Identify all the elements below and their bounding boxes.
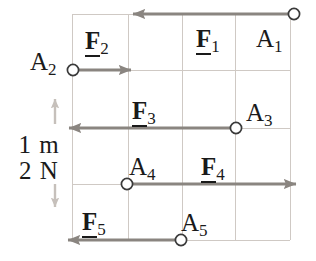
label-a5-symbol: A: [181, 209, 199, 236]
label-a2-symbol: A: [30, 48, 48, 75]
label-a5: A5: [181, 210, 208, 239]
label-f2: F2: [85, 28, 109, 57]
label-f3: F3: [132, 98, 156, 127]
scale-force-label: 2 N: [8, 158, 70, 184]
label-a1: A1: [256, 26, 283, 55]
label-f4-symbol: F: [201, 153, 216, 183]
force-vector-diagram: F1 A1 F2 A2 F3 A3 F4 A4 F5 A5 1 m 2 N: [0, 0, 316, 261]
label-a5-subscript: 5: [199, 221, 208, 240]
point-marker-a3: [230, 122, 241, 133]
label-f4-subscript: 4: [216, 165, 225, 184]
label-f3-symbol: F: [132, 97, 147, 127]
label-a4-symbol: A: [129, 153, 147, 180]
vector-f1: [133, 8, 300, 19]
label-a4-subscript: 4: [147, 165, 156, 184]
label-a4: A4: [129, 154, 156, 183]
label-f2-subscript: 2: [100, 39, 109, 58]
label-f5-subscript: 5: [97, 220, 106, 239]
label-a1-symbol: A: [256, 25, 274, 52]
point-marker-a1: [288, 8, 299, 19]
label-a2: A2: [30, 49, 57, 78]
label-f1: F1: [196, 26, 220, 55]
label-f5: F5: [82, 209, 106, 238]
point-marker-a2: [67, 64, 78, 75]
label-f3-subscript: 3: [147, 109, 156, 128]
label-f4: F4: [201, 154, 225, 183]
label-f5-symbol: F: [82, 208, 97, 238]
label-a3: A3: [246, 100, 273, 129]
label-a3-symbol: A: [246, 99, 264, 126]
label-a3-subscript: 3: [264, 111, 273, 130]
label-a1-subscript: 1: [274, 37, 283, 56]
label-f2-symbol: F: [85, 27, 100, 57]
vector-f2: [67, 64, 131, 75]
label-f1-subscript: 1: [211, 37, 220, 56]
scale-length-label: 1 m: [8, 132, 70, 158]
label-a2-subscript: 2: [48, 60, 57, 79]
scale-legend: 1 m 2 N: [8, 132, 70, 184]
label-f1-symbol: F: [196, 25, 211, 55]
